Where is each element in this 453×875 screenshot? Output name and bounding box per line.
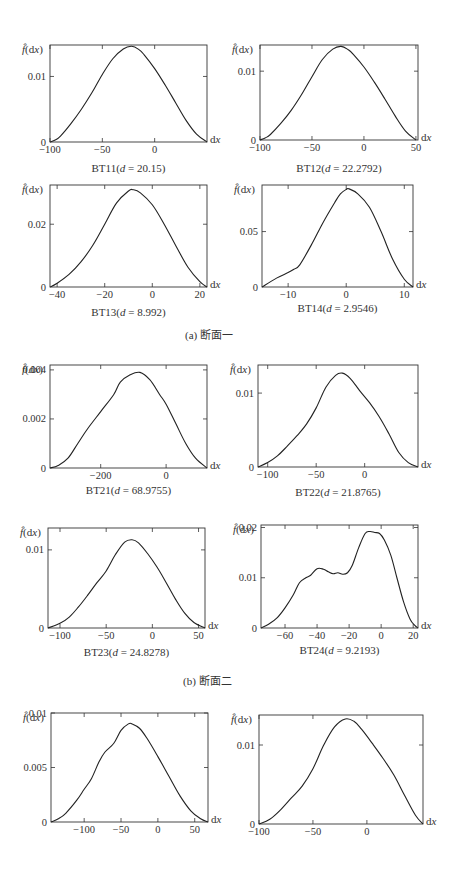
x-tick-label: 0 <box>379 630 384 641</box>
subplot-caption: BT23(d = 24.8278) <box>84 646 170 659</box>
y-axis-label: f̂(dx) <box>232 43 253 56</box>
y-tick-label: 0.01 <box>237 740 255 751</box>
y-tick-label: 0 <box>251 135 256 146</box>
x-tick-label: 20 <box>195 289 206 300</box>
y-tick-label: 0.01 <box>236 388 254 399</box>
y-axis-label: f̂(dx) <box>22 363 43 376</box>
plot-frame <box>50 185 207 287</box>
density-curve <box>260 46 416 140</box>
density-curve <box>50 46 207 142</box>
plot-bt12: −100−5005000.01f̂(dx)dxBT12(d = 22.2792) <box>232 43 432 175</box>
x-axis-label: dx <box>211 813 222 825</box>
x-axis-label: dx <box>421 619 432 631</box>
group-caption-a: (a) 断面一 <box>185 326 233 342</box>
density-curve <box>261 531 418 628</box>
x-tick-label: 50 <box>193 630 204 641</box>
x-axis-label: dx <box>208 619 219 631</box>
subplot-caption: BT11(d = 20.15) <box>92 162 166 175</box>
density-curve <box>262 188 413 287</box>
plot-bt11: −100−50000.01f̂(dx)dxBT11(d = 20.15) <box>22 43 221 175</box>
x-tick-label: −200 <box>90 470 112 481</box>
figure-canvas: −100−50000.01f̂(dx)dxBT11(d = 20.15)−100… <box>0 0 453 875</box>
density-curve <box>50 372 207 468</box>
plot-frame <box>259 715 423 824</box>
x-tick-label: −50 <box>305 826 321 837</box>
plot-bt13: −40−2002000.02f̂(dx)dxBT13(d = 8.992) <box>22 183 221 319</box>
plot-frame <box>260 45 418 140</box>
x-tick-label: −20 <box>97 289 113 300</box>
x-tick-label: −50 <box>304 142 320 153</box>
plot-bt23: −100−5005000.01f̂(dx)dxBT23(d = 24.8278) <box>20 526 219 659</box>
plot-bt14: −1001000.05f̂(dx)dxBT14(d = 2.9546) <box>234 183 427 315</box>
y-axis-label: f̂(dx) <box>20 526 41 539</box>
y-tick-label: 0.01 <box>238 66 256 77</box>
y-tick-label: 0.01 <box>28 71 46 82</box>
plot-frame <box>51 713 208 822</box>
plot-bt21: −200000.0020.004f̂(dx)dxBT21(d = 68.9755… <box>22 363 221 497</box>
x-tick-label: −50 <box>308 469 324 480</box>
y-tick-label: 0 <box>253 282 258 293</box>
y-tick-label: 0 <box>39 623 44 634</box>
y-axis-label: f̂(dx) <box>22 183 43 196</box>
y-tick-label: 0.005 <box>23 762 47 773</box>
x-tick-label: −100 <box>49 630 71 641</box>
subplot-caption: BT22(d = 21.8765) <box>295 486 381 499</box>
density-curve <box>50 189 207 287</box>
y-axis-label: f̂(dx) <box>231 713 252 726</box>
subplot-caption: BT24(d = 9.2193) <box>300 644 380 657</box>
group-caption-b: (b) 断面二 <box>183 672 232 688</box>
x-tick-label: −60 <box>277 630 293 641</box>
x-tick-label: 0 <box>361 142 366 153</box>
x-axis-label: dx <box>421 131 432 143</box>
subplot-caption: BT12(d = 22.2792) <box>296 162 382 175</box>
y-tick-label: 0 <box>252 623 257 634</box>
y-tick-label: 0.02 <box>28 219 46 230</box>
plot-frame <box>261 525 418 628</box>
y-axis-label: f̂(dx) <box>22 43 43 56</box>
x-axis-label: dx <box>210 459 221 471</box>
x-axis-label: dx <box>210 278 221 290</box>
x-tick-label: −100 <box>257 469 279 480</box>
x-tick-label: −20 <box>341 630 357 641</box>
y-tick-label: 0 <box>250 819 255 830</box>
x-axis-label: dx <box>421 458 432 470</box>
density-curve <box>259 719 423 824</box>
subplot-caption: BT14(d = 2.9546) <box>298 302 378 315</box>
plot-frame <box>50 45 207 142</box>
x-tick-label: −50 <box>113 824 129 835</box>
plot-bt22: −100−50000.01f̂(dx)dxBT22(d = 21.8765) <box>230 363 432 499</box>
y-axis-label: f̂(dx) <box>234 183 255 196</box>
x-axis-label: dx <box>426 815 437 827</box>
y-tick-label: 0 <box>41 282 46 293</box>
x-tick-label: 0 <box>150 630 155 641</box>
x-axis-label: dx <box>210 133 221 145</box>
density-curve <box>258 373 418 467</box>
x-tick-label: 0 <box>152 144 157 155</box>
y-tick-label: 0.01 <box>239 572 257 583</box>
y-tick-label: 0 <box>41 463 46 474</box>
plot-bt32: −100−50000.01f̂(dx)dx <box>231 713 437 837</box>
subplot-caption: BT21(d = 68.9755) <box>86 484 172 497</box>
density-curve <box>48 540 205 628</box>
x-tick-label: 0 <box>362 469 367 480</box>
subplot-caption: BT13(d = 8.992) <box>91 306 166 319</box>
y-tick-label: 0 <box>249 462 254 473</box>
x-tick-label: 0 <box>364 826 369 837</box>
y-axis-label: f̂(dx) <box>23 711 44 724</box>
plot-frame <box>50 365 207 468</box>
x-tick-label: −40 <box>49 289 65 300</box>
x-tick-label: −50 <box>94 144 110 155</box>
y-tick-label: 0 <box>42 817 47 828</box>
y-axis-label: f̂(dx) <box>230 363 251 376</box>
plot-frame <box>48 528 205 628</box>
x-tick-label: 0 <box>163 470 168 481</box>
y-tick-label: 0.002 <box>22 413 46 424</box>
x-tick-label: −50 <box>98 630 114 641</box>
x-tick-label: −100 <box>73 824 95 835</box>
x-tick-label: 50 <box>189 824 200 835</box>
x-tick-label: 0 <box>155 824 160 835</box>
x-tick-label: 20 <box>408 630 419 641</box>
x-tick-label: 0 <box>344 289 349 300</box>
y-tick-label: 0.05 <box>240 226 258 237</box>
x-tick-label: −40 <box>309 630 325 641</box>
